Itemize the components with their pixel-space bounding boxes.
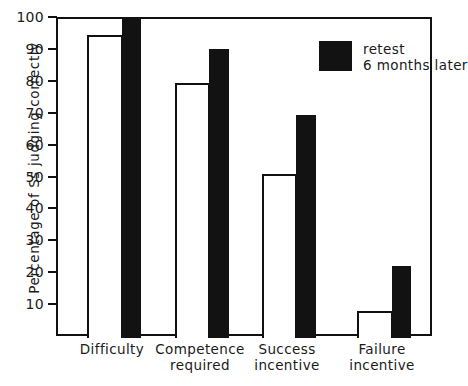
y-axis-tick-label-10: 10 — [0, 296, 44, 312]
x-axis-label-3: Failure incentive — [312, 342, 452, 373]
bar-test-1 — [175, 83, 210, 338]
bar-test-2 — [262, 174, 297, 338]
legend-swatch-retest — [319, 41, 352, 71]
y-axis-tick-label-90: 90 — [0, 41, 44, 57]
y-axis-tick-label-40: 40 — [0, 200, 44, 216]
bar-test-0 — [87, 35, 123, 338]
y-axis-tick-label-30: 30 — [0, 232, 44, 248]
legend-label-line-2: 6 months later — [363, 58, 468, 74]
bar-test-3 — [357, 311, 393, 338]
y-axis-tick-label-70: 70 — [0, 105, 44, 121]
bar-retest-0 — [122, 19, 141, 338]
legend: retest 6 months later — [319, 41, 468, 73]
legend-label: retest 6 months later — [363, 41, 468, 73]
plot-area: retest 6 months later — [56, 17, 432, 336]
legend-label-line-1: retest — [363, 42, 468, 58]
y-axis-tick-label-60: 60 — [0, 137, 44, 153]
bar-retest-3 — [392, 266, 411, 338]
y-axis-tick-label-100: 100 — [0, 9, 44, 25]
y-axis-tick-label-20: 20 — [0, 264, 44, 280]
y-axis-tick-label-50: 50 — [0, 169, 44, 185]
bar-retest-1 — [209, 49, 229, 338]
y-axis-tick-label-80: 80 — [0, 73, 44, 89]
bar-retest-2 — [296, 115, 316, 338]
